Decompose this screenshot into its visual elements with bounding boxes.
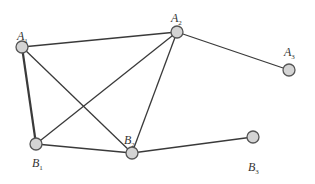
nodes-group: [16, 26, 295, 159]
node-label-b2: B2: [124, 133, 135, 149]
node-label-a3: A3: [283, 45, 295, 61]
edge-a1-a2: [22, 32, 177, 47]
edge-b1-b2: [36, 144, 132, 153]
graph-diagram: A1A2A3B1B2B3: [0, 0, 315, 184]
node-label-a2: A2: [170, 11, 182, 27]
node-label-b1: B1: [32, 156, 43, 172]
node-label-b3: B3: [248, 160, 259, 176]
node-b3: [247, 131, 259, 143]
node-a2: [171, 26, 183, 38]
node-b1: [30, 138, 42, 150]
labels-group: A1A2A3B1B2B3: [16, 11, 295, 176]
edge-a2-a3: [177, 32, 289, 70]
node-a3: [283, 64, 295, 76]
node-label-a1: A1: [16, 29, 28, 45]
edge-a1-b1: [22, 47, 36, 144]
edge-a1-b2: [22, 47, 132, 153]
edge-b2-b3: [132, 137, 253, 153]
